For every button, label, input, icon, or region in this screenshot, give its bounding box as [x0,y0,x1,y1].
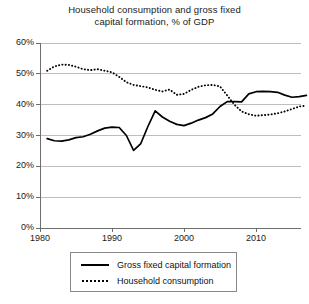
y-axis-tick-label: 30% [2,130,34,140]
x-axis-tick-label: 1980 [20,233,60,243]
legend-label-gross-fixed-capital-formation: Gross fixed capital formation [117,260,231,270]
legend-label-household-consumption: Household consumption [117,276,214,286]
y-axis-tick-label: 40% [2,99,34,109]
x-axis-tick-label: 2000 [164,233,204,243]
series-line-gross-fixed-capital-formation [47,91,306,150]
series-line-household-consumption [47,65,306,116]
data-series-layer [47,65,306,151]
legend-item-household-consumption: Household consumption [79,274,214,288]
gridlines [40,43,301,228]
x-axis-tick-label: 2010 [236,233,276,243]
y-axis-tick-label: 10% [2,191,34,201]
legend-item-gross-fixed-capital-formation: Gross fixed capital formation [79,258,231,272]
solid-line-swatch-icon [79,260,111,270]
chart-legend: Gross fixed capital formation Household … [70,252,237,292]
dotted-line-swatch-icon [79,276,111,286]
x-tick-marks [36,43,256,232]
y-axis-tick-label: 60% [2,37,34,47]
chart-container: Household consumption and gross fixed ca… [0,0,309,304]
y-axis-tick-label: 50% [2,68,34,78]
x-axis-tick-label: 1990 [92,233,132,243]
y-axis-tick-label: 0% [2,222,34,232]
y-axis-tick-label: 20% [2,160,34,170]
